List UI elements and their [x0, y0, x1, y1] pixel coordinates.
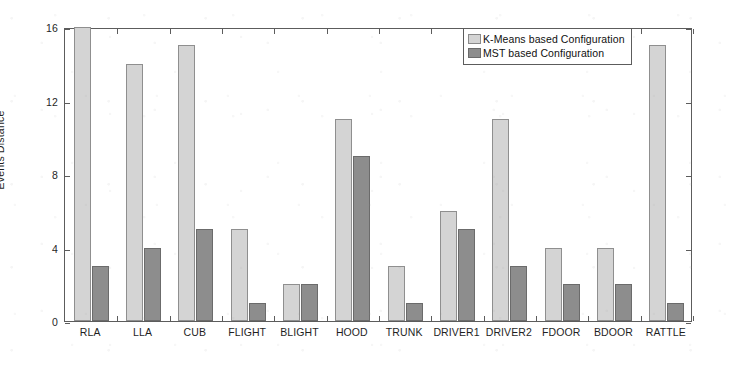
x-tick-mark-bottom [588, 316, 589, 321]
plot-area [64, 28, 692, 322]
bar [510, 266, 527, 321]
x-tick-mark-bottom [274, 316, 275, 321]
x-tick-mark-bottom [170, 316, 171, 321]
y-tick-label: 4 [0, 243, 58, 255]
chart-legend: K-Means based Configuration MST based Co… [463, 28, 632, 65]
legend-swatch-mst [468, 48, 481, 58]
x-tick-mark-top [222, 29, 223, 34]
x-tick-label: DRIVER1 [433, 326, 479, 338]
bar [667, 303, 684, 321]
bar [178, 45, 195, 321]
bar [335, 119, 352, 321]
y-tick-mark [65, 176, 70, 177]
bar [74, 27, 91, 321]
x-tick-mark-bottom [693, 316, 694, 321]
x-tick-mark-bottom [117, 316, 118, 321]
x-tick-label: TRUNK [386, 326, 423, 338]
x-tick-mark-bottom [222, 316, 223, 321]
x-tick-mark-bottom [641, 316, 642, 321]
bar [388, 266, 405, 321]
y-axis-label: Events Distance [0, 111, 6, 190]
x-tick-label: HOOD [336, 326, 368, 338]
x-tick-label: BDOOR [594, 326, 633, 338]
y-tick-label: 0 [0, 316, 58, 328]
x-tick-mark-bottom [379, 316, 380, 321]
x-tick-label: LLA [133, 326, 152, 338]
y-tick-mark [65, 250, 70, 251]
bar [545, 248, 562, 322]
y-tick-label: 16 [0, 22, 58, 34]
legend-item-0: K-Means based Configuration [468, 32, 625, 46]
x-tick-mark-top [170, 29, 171, 34]
x-tick-label: BLIGHT [280, 326, 319, 338]
bar [283, 284, 300, 321]
y-tick-mark-right [686, 29, 691, 30]
bar-chart-figure: 0481216RLALLACUBFLIGHTBLIGHTHOODTRUNKDRI… [0, 0, 731, 365]
x-tick-label: FLIGHT [228, 326, 266, 338]
x-tick-mark-bottom [536, 316, 537, 321]
bar [563, 284, 580, 321]
y-tick-label: 8 [0, 169, 58, 181]
bar [406, 303, 423, 321]
legend-swatch-kmeans [468, 34, 481, 44]
legend-item-1: MST based Configuration [468, 46, 625, 60]
y-tick-mark-right [686, 103, 691, 104]
bar [249, 303, 266, 321]
y-tick-mark-right [686, 250, 691, 251]
x-tick-label: CUB [184, 326, 206, 338]
legend-label-mst: MST based Configuration [483, 47, 604, 59]
x-tick-mark-top [431, 29, 432, 34]
y-tick-mark-right [686, 176, 691, 177]
bar [440, 211, 457, 321]
bar [458, 229, 475, 321]
x-tick-mark-top [641, 29, 642, 34]
x-tick-mark-top [693, 29, 694, 34]
y-tick-mark [65, 103, 70, 104]
x-tick-label: RLA [80, 326, 101, 338]
x-tick-mark-top [327, 29, 328, 34]
bar [126, 64, 143, 321]
bar [649, 45, 666, 321]
x-tick-mark-bottom [431, 316, 432, 321]
bar [144, 248, 161, 322]
bar [615, 284, 632, 321]
x-tick-mark-top [274, 29, 275, 34]
bar [353, 156, 370, 321]
x-tick-mark-top [117, 29, 118, 34]
bar [597, 248, 614, 322]
bar [196, 229, 213, 321]
x-tick-label: RATTLE [646, 326, 686, 338]
y-tick-mark [65, 29, 70, 30]
y-tick-mark [65, 323, 70, 324]
x-tick-label: DRIVER2 [486, 326, 532, 338]
x-tick-mark-bottom [327, 316, 328, 321]
bar [92, 266, 109, 321]
bar [301, 284, 318, 321]
y-tick-label: 12 [0, 96, 58, 108]
x-tick-mark-top [379, 29, 380, 34]
y-tick-mark-right [686, 323, 691, 324]
legend-label-kmeans: K-Means based Configuration [483, 33, 625, 45]
bar [231, 229, 248, 321]
x-tick-label: FDOOR [542, 326, 580, 338]
bar [492, 119, 509, 321]
x-tick-mark-bottom [484, 316, 485, 321]
